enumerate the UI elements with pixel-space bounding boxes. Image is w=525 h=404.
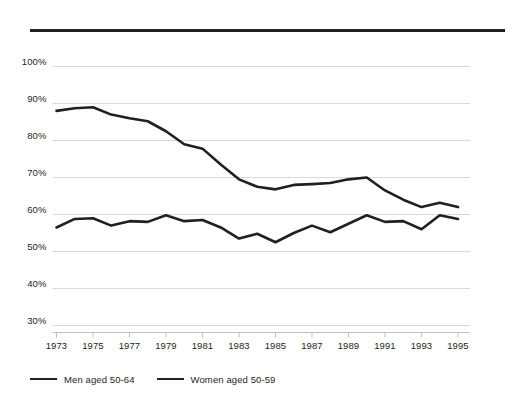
x-axis-tick-label: 1985 [259, 340, 293, 351]
x-axis-tick-label: 1981 [186, 340, 220, 351]
y-axis-tick-label: 40% [11, 278, 47, 289]
legend-item-label: Men aged 50-64 [64, 374, 135, 385]
x-axis-tick-label: 1995 [441, 340, 475, 351]
x-axis-tick-label: 1973 [40, 340, 74, 351]
y-axis-tick-label: 90% [11, 93, 47, 104]
legend-line-swatch-icon [30, 378, 57, 381]
legend-line-swatch-icon [157, 378, 184, 381]
y-axis-tick-label: 70% [11, 167, 47, 178]
series-line-women [57, 215, 459, 242]
x-axis-tick-label: 1991 [368, 340, 402, 351]
axis-ticks [53, 333, 471, 338]
series-line-men [57, 107, 459, 207]
x-axis-tick-label: 1987 [295, 340, 329, 351]
figure: 100%90%80%70%60%50%40%30% 19731975197719… [0, 0, 525, 404]
y-axis-tick-label: 80% [11, 130, 47, 141]
legend-item-label: Women aged 50-59 [191, 374, 276, 385]
x-axis-tick-label: 1979 [149, 340, 183, 351]
plot-area: 100%90%80%70%60%50%40%30% 19731975197719… [0, 0, 525, 404]
y-axis-tick-label: 30% [11, 315, 47, 326]
y-axis-tick-label: 50% [11, 241, 47, 252]
y-axis-tick-label: 60% [11, 204, 47, 215]
x-axis-tick-label: 1977 [113, 340, 147, 351]
y-axis-tick-label: 100% [11, 56, 47, 67]
gridlines [53, 67, 471, 326]
chart-legend: Men aged 50-64Women aged 50-59 [30, 370, 297, 388]
x-axis-tick-label: 1989 [332, 340, 366, 351]
legend-item-women[interactable]: Women aged 50-59 [157, 374, 276, 385]
series-lines [57, 107, 459, 242]
x-axis-tick-label: 1975 [76, 340, 110, 351]
x-axis-tick-label: 1983 [222, 340, 256, 351]
legend-item-men[interactable]: Men aged 50-64 [30, 374, 135, 385]
x-axis-tick-label: 1993 [405, 340, 439, 351]
